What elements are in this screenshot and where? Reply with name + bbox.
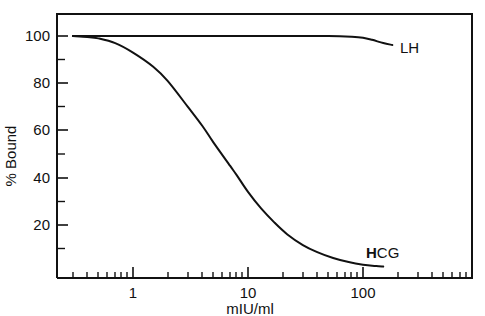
x-axis-title: mIU/ml <box>226 300 274 316</box>
y-tick-label-80: 80 <box>33 74 50 91</box>
x-tick-label-10: 10 <box>240 284 257 301</box>
lh-curve-label: LH <box>400 39 419 56</box>
x-tick-label-1: 1 <box>129 284 137 301</box>
y-axis-title: % Bound <box>2 126 19 187</box>
hcg-label-bold-h: H <box>366 244 377 261</box>
y-tick-label-100: 100 <box>25 27 50 44</box>
y-tick-label-20: 20 <box>33 216 50 233</box>
y-tick-label-60: 60 <box>33 121 50 138</box>
binding-curve-chart: 100 80 60 40 20 % Bound <box>0 0 485 316</box>
hcg-curve-label: HCG <box>366 244 399 261</box>
y-tick-label-40: 40 <box>33 169 50 186</box>
x-tick-label-100: 100 <box>350 284 375 301</box>
hcg-label-rest: CG <box>377 244 400 261</box>
